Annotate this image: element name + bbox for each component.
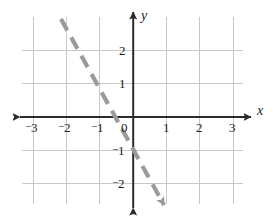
y-tick-label-neg1: –1 [113, 144, 125, 157]
coordinate-plane-figure: –3 –2 –1 0 1 2 3 2 1 –1 –2 x y [0, 0, 273, 221]
y-tick-label-1: 1 [119, 77, 126, 90]
x-tick-label-3: 3 [229, 121, 236, 134]
y-tick-label-neg2: –2 [113, 177, 125, 190]
x-tick-label-neg1: –1 [92, 121, 104, 134]
x-tick-label-neg2: –2 [59, 121, 71, 134]
plot-canvas [0, 0, 273, 221]
y-axis-label: y [141, 9, 147, 23]
x-axis-label: x [257, 104, 263, 118]
x-tick-label-2: 2 [196, 121, 203, 134]
x-tick-label-1: 1 [163, 121, 170, 134]
x-tick-label-neg3: –3 [26, 121, 38, 134]
y-tick-label-2: 2 [119, 44, 126, 57]
origin-label: 0 [121, 121, 128, 134]
